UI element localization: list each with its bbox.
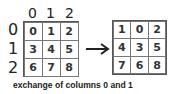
matrix-cell: 4 bbox=[42, 40, 61, 59]
result-matrix: 1 0 2 4 3 5 7 6 8 bbox=[112, 20, 167, 75]
matrix-cell: 1 bbox=[113, 21, 132, 40]
matrix-cell: 6 bbox=[130, 56, 149, 75]
matrix-cell: 2 bbox=[148, 21, 167, 40]
matrix-cell: 1 bbox=[42, 22, 61, 41]
matrix-cell: 8 bbox=[60, 58, 79, 77]
matrix-cell: 0 bbox=[130, 21, 149, 40]
row-label: 2 bbox=[6, 59, 20, 77]
column-label: 1 bbox=[41, 5, 60, 21]
matrix-cell: 6 bbox=[24, 58, 43, 77]
matrix-cell: 7 bbox=[113, 56, 132, 75]
original-matrix: 0 1 2 3 4 5 6 7 8 bbox=[23, 21, 79, 77]
column-label: 2 bbox=[60, 5, 79, 21]
caption: exchange of columns 0 and 1 bbox=[13, 80, 133, 90]
matrix-cell: 4 bbox=[113, 38, 132, 57]
matrix-cell: 0 bbox=[24, 22, 43, 41]
row-label: 0 bbox=[6, 21, 20, 39]
row-label: 1 bbox=[6, 40, 20, 58]
matrix-cell: 8 bbox=[148, 56, 167, 75]
matrix-cell: 5 bbox=[60, 40, 79, 59]
matrix-cell: 5 bbox=[148, 38, 167, 57]
column-label: 0 bbox=[23, 5, 42, 21]
matrix-cell: 3 bbox=[24, 40, 43, 59]
right-arrow-icon bbox=[86, 43, 110, 55]
matrix-cell: 2 bbox=[60, 22, 79, 41]
matrix-cell: 3 bbox=[130, 38, 149, 57]
matrix-cell: 7 bbox=[42, 58, 61, 77]
